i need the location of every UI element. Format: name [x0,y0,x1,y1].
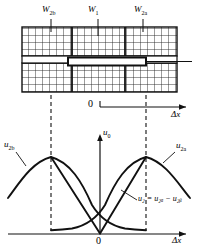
leader-u2b [16,152,26,166]
label-u2-equation: u₂ = u₂ₐ − u₂ᵦ [138,195,182,203]
top-axis-origin-label: 0 [88,99,93,109]
curve-u2-left-branch [51,157,100,234]
top-axis-arrow [179,104,186,110]
movable-core [68,58,146,66]
device-body [22,27,192,92]
label-u0-sub: 0 [108,133,111,139]
label-u0: u0 [103,128,111,139]
label-u2b: u2b [4,140,15,151]
chart-y-axis-arrow [97,134,103,141]
label-u2a-sub: 2a [181,146,187,152]
chart-area [8,134,190,237]
label-u2a: u2a [176,141,186,152]
label-u2b-sub: 2b [9,145,15,151]
label-w2a-text: W [134,4,142,14]
chart-origin-label: 0 [96,236,101,246]
top-axis-label: Δx [171,110,180,119]
leader-u2a [163,152,175,163]
label-w2a-sub: 2a [142,10,148,16]
upper-coil-band [22,27,177,56]
label-w1-text: W [88,4,96,14]
lower-coil-band [22,63,177,92]
label-w2b-text: W [42,4,50,14]
label-w2b-sub: 2b [50,10,56,16]
label-w1: W1 [88,5,99,16]
figure-differential-transformer: W2b W1 W2a 0 Δx u2b u2a u0 u₂ = u₂ₐ − u₂… [0,0,199,251]
label-w2a: W2a [134,5,147,16]
label-w1-sub: 1 [96,10,99,16]
chart-x-axis-label: Δx [172,236,181,245]
label-w2b: W2b [42,5,56,16]
figure-canvas [0,0,199,251]
curve-u2b [8,157,146,230]
